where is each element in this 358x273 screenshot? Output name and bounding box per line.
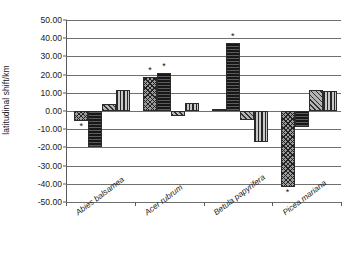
y-tick-mark xyxy=(63,20,67,21)
y-tick-mark xyxy=(63,111,67,112)
bar xyxy=(116,90,130,111)
gridline xyxy=(66,75,341,76)
y-tick-label: 20.00 xyxy=(40,70,62,80)
bar xyxy=(102,104,116,111)
bar xyxy=(212,109,226,111)
bar xyxy=(240,111,254,120)
y-tick-mark xyxy=(63,74,67,75)
x-tick-mark xyxy=(272,202,273,206)
y-tick-label: 10.00 xyxy=(40,88,62,98)
bar xyxy=(309,90,323,111)
y-tick-label: -50.00 xyxy=(38,197,62,207)
x-tick-mark xyxy=(135,202,136,206)
bar xyxy=(254,111,268,142)
gridline xyxy=(66,38,341,39)
bar xyxy=(143,77,157,111)
bar xyxy=(281,111,295,187)
y-tick-mark xyxy=(63,129,67,130)
y-tick-mark xyxy=(63,147,67,148)
y-tick-label: -40.00 xyxy=(38,179,62,189)
bar xyxy=(171,111,185,116)
gridline xyxy=(66,166,341,167)
bar xyxy=(74,111,88,121)
y-tick-mark xyxy=(63,92,67,93)
bar xyxy=(295,111,309,127)
x-tick-mark xyxy=(66,202,67,206)
bar xyxy=(323,91,337,111)
y-axis-title: latitudinal shift/km xyxy=(1,40,11,160)
y-tick-mark xyxy=(63,165,67,166)
y-tick-label: -10.00 xyxy=(38,124,62,134)
x-tick-mark xyxy=(204,202,205,206)
y-tick-mark xyxy=(63,183,67,184)
bar xyxy=(226,43,240,111)
plot-area: 50.0040.0030.0020.0010.000.00-10.00-20.0… xyxy=(66,20,341,202)
y-tick-label: 40.00 xyxy=(40,33,62,43)
gridline xyxy=(66,93,341,94)
significance-asterisk: * xyxy=(148,66,152,75)
gridline xyxy=(66,147,341,148)
gridline xyxy=(66,20,341,21)
y-tick-mark xyxy=(63,56,67,57)
significance-asterisk: * xyxy=(286,188,290,197)
y-tick-label: -30.00 xyxy=(38,161,62,171)
bar xyxy=(185,103,199,111)
gridline xyxy=(66,56,341,57)
bar xyxy=(157,73,171,111)
y-tick-label: -20.00 xyxy=(38,142,62,152)
x-tick-mark xyxy=(341,202,342,206)
bar xyxy=(88,111,102,147)
gridline xyxy=(66,129,341,130)
y-tick-label: 50.00 xyxy=(40,15,62,25)
bar-chart: latitudinal shift/km 50.0040.0030.0020.0… xyxy=(0,0,358,273)
y-tick-mark xyxy=(63,38,67,39)
significance-asterisk: * xyxy=(162,62,166,71)
significance-asterisk: * xyxy=(80,122,84,131)
significance-asterisk: * xyxy=(231,32,235,41)
y-tick-label: 30.00 xyxy=(40,51,62,61)
y-tick-label: 0.00 xyxy=(45,106,62,116)
